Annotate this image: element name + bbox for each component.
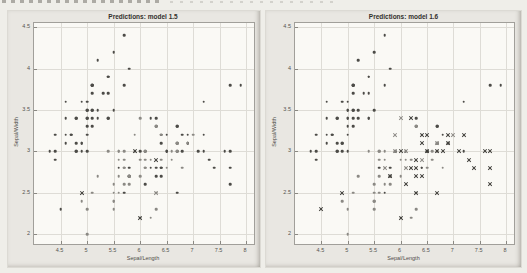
data-point-dot (431, 150, 434, 153)
y-tick-label: 2.5 (16, 189, 30, 195)
data-point-dot (80, 200, 83, 203)
data-point-dot (65, 100, 68, 103)
data-point-dot (389, 67, 392, 70)
data-point-dot (362, 92, 365, 95)
data-point-dot (91, 117, 94, 120)
data-point-dot (229, 183, 232, 186)
data-point-dot (123, 158, 126, 161)
plot-area (294, 22, 515, 245)
data-point-dot (441, 133, 444, 136)
data-point-dot (128, 175, 131, 178)
data-point-dot (436, 125, 439, 128)
data-point-cross (403, 182, 408, 187)
data-point-dot (341, 142, 344, 145)
data-point-cross (132, 149, 137, 154)
data-point-dot (426, 167, 429, 170)
y-tick-label: 2 (16, 230, 30, 236)
data-point-dot (352, 109, 355, 112)
data-point-dot (373, 109, 376, 112)
y-gridline (295, 27, 514, 28)
data-point-dot (107, 92, 110, 95)
data-point-dot (80, 150, 83, 153)
x-tick-label: 4.5 (56, 247, 64, 253)
data-point-dot (86, 150, 89, 153)
data-point-cross (398, 149, 403, 154)
data-point-cross (419, 132, 424, 137)
y-axis-label: Sepal/Width (13, 117, 19, 147)
data-point-dot (346, 150, 349, 153)
data-point-dot (123, 84, 126, 87)
data-point-cross (153, 157, 158, 162)
x-tick-label: 6.5 (162, 247, 170, 253)
data-point-cross (488, 182, 493, 187)
data-point-cross (414, 165, 419, 170)
x-tick-mark (193, 241, 194, 244)
data-point-dot (202, 133, 205, 136)
data-point-dot (112, 200, 115, 203)
x-tick-mark (246, 241, 247, 244)
y-gridline (34, 110, 254, 111)
data-point-dot (112, 208, 115, 211)
data-point-cross (409, 116, 414, 121)
data-point-dot (368, 117, 371, 120)
data-point-dot (118, 191, 121, 194)
y-gridline (34, 69, 254, 70)
data-point-dot (149, 167, 152, 170)
data-point-dot (128, 183, 131, 186)
y-tick-label: 3.5 (277, 106, 291, 112)
data-point-dot (405, 158, 408, 161)
x-tick-mark (506, 241, 507, 244)
data-point-dot (102, 92, 105, 95)
data-point-cross (403, 149, 408, 154)
data-point-cross (414, 190, 419, 195)
data-point-dot (181, 167, 184, 170)
data-point-cross (424, 132, 429, 137)
data-point-dot (325, 133, 328, 136)
x-tick-mark (114, 241, 115, 244)
data-point-cross (319, 207, 324, 212)
data-point-dot (346, 125, 349, 128)
data-point-dot (123, 167, 126, 170)
data-point-dot (123, 191, 126, 194)
data-point-dot (383, 150, 386, 153)
data-point-dot (118, 150, 121, 153)
data-point-dot (357, 109, 360, 112)
data-point-dot (357, 59, 360, 62)
data-point-dot (112, 109, 115, 112)
x-tick-label: 7 (451, 247, 454, 253)
data-point-dot (139, 117, 142, 120)
data-point-dot (54, 133, 57, 136)
data-point-dot (389, 183, 392, 186)
data-point-dot (352, 84, 355, 87)
data-point-dot (341, 150, 344, 153)
data-point-cross (488, 165, 493, 170)
data-point-dot (155, 125, 158, 128)
data-point-dot (341, 100, 344, 103)
data-point-cross (461, 132, 466, 137)
data-point-dot (155, 167, 158, 170)
data-point-dot (197, 150, 200, 153)
data-point-dot (357, 175, 360, 178)
data-point-dot (310, 150, 313, 153)
data-point-dot (420, 167, 423, 170)
data-point-dot (229, 167, 232, 170)
x-tick-label: 7.5 (215, 247, 223, 253)
data-point-cross (398, 116, 403, 121)
data-point-dot (431, 158, 434, 161)
x-gridline (374, 23, 375, 244)
data-point-dot (239, 84, 242, 87)
data-point-cross (138, 215, 143, 220)
data-point-dot (378, 158, 381, 161)
y-tick-label: 3 (277, 147, 291, 153)
data-point-dot (49, 150, 52, 153)
x-tick-label: 5.5 (369, 247, 377, 253)
y-tick-mark (34, 151, 37, 152)
data-point-cross (419, 174, 424, 179)
data-point-dot (155, 175, 158, 178)
y-tick-mark (34, 234, 37, 235)
x-tick-label: 7.5 (475, 247, 483, 253)
y-tick-label: 4.5 (277, 23, 291, 29)
data-point-dot (346, 233, 349, 236)
data-point-dot (500, 84, 503, 87)
data-point-dot (176, 125, 179, 128)
